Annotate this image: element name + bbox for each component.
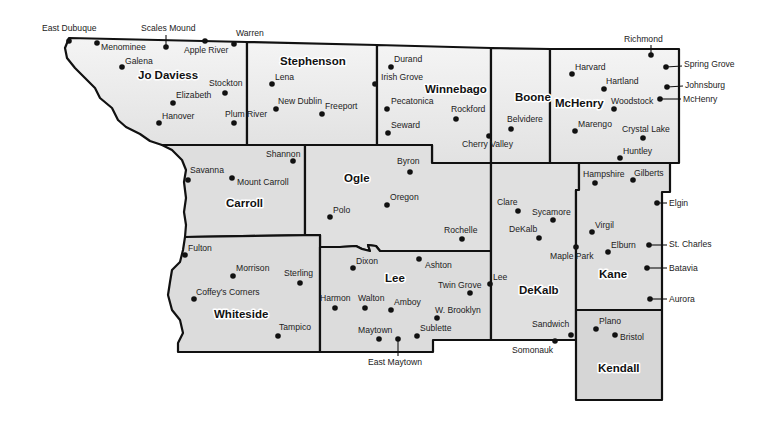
city-label: East Dubuque (42, 23, 97, 33)
city-label: Warren (236, 28, 264, 38)
city-label: Polo (333, 205, 350, 215)
city-label: Johnsburg (685, 80, 725, 90)
city-marker-icon (640, 135, 646, 141)
city-label: Seward (391, 120, 420, 130)
city-marker-icon (617, 155, 623, 161)
city-marker-icon (269, 81, 275, 87)
city-marker-icon (508, 126, 514, 132)
county-label-kendall: Kendall (598, 362, 640, 374)
city-label: Richmond (624, 34, 663, 44)
city-label: Ashton (425, 260, 452, 270)
city-marker-icon (319, 111, 325, 117)
city-marker-icon (385, 130, 391, 136)
city-marker-icon (589, 229, 595, 235)
city-marker-icon (568, 332, 574, 338)
city-label: Lena (275, 72, 294, 82)
city-label: Byron (397, 156, 420, 166)
city-marker-icon (611, 106, 617, 112)
city-label: Twin Grove (438, 280, 482, 290)
city-marker-icon (515, 208, 521, 214)
county-label-carroll: Carroll (226, 197, 263, 209)
city-marker-icon (416, 256, 422, 262)
city-label: Cherry Valley (462, 139, 514, 149)
county-map: Jo DaviessStephensonWinnebagoBooneMcHenr… (0, 0, 775, 421)
city-marker-icon (644, 265, 650, 271)
city-label: Sycamore (532, 207, 571, 217)
city-marker-icon (388, 307, 394, 313)
city-marker-icon (362, 305, 368, 311)
city-marker-icon (229, 175, 235, 181)
city-marker-icon (185, 177, 191, 183)
city-marker-icon (332, 305, 338, 311)
county-label-lee: Lee (385, 272, 405, 284)
city-marker-icon (647, 296, 653, 302)
city-label: Irish Grove (381, 72, 423, 82)
city-label: Shannon (266, 149, 301, 159)
county-label-stephenson: Stephenson (280, 55, 346, 67)
city-marker-icon (550, 217, 556, 223)
city-marker-icon (434, 315, 440, 321)
city-marker-icon (170, 100, 176, 106)
city-marker-icon (646, 242, 652, 248)
city-label: Sublette (420, 323, 452, 333)
city-marker-icon (350, 265, 356, 271)
city-marker-icon (654, 200, 660, 206)
city-label: Gilberts (634, 168, 664, 178)
city-label: Clare (497, 197, 518, 207)
city-marker-icon (231, 120, 237, 126)
city-label: Crystal Lake (622, 124, 670, 134)
city-label: Lee (493, 272, 508, 282)
city-label: Tampico (279, 322, 311, 332)
city-label: St. Charles (669, 239, 712, 249)
city-label: Freeport (325, 101, 358, 111)
city-marker-icon (612, 332, 618, 338)
city-marker-icon (593, 326, 599, 332)
city-label: Rockford (451, 104, 486, 114)
city-label: Stockton (209, 78, 243, 88)
city-label: Dixon (356, 256, 378, 266)
city-label: Somonauk (512, 345, 554, 355)
city-label: Woodstock (611, 96, 654, 106)
city-marker-icon (376, 336, 382, 342)
city-label: Elgin (669, 198, 688, 208)
city-marker-icon (453, 116, 459, 122)
county-label-kane: Kane (599, 268, 627, 280)
city-label: Amboy (394, 297, 421, 307)
city-label: Scales Mound (141, 23, 196, 33)
city-menominee[interactable]: Menominee (94, 40, 146, 52)
city-label: New Dublin (278, 96, 322, 106)
county-shapes (65, 38, 679, 400)
city-label: McHenry (683, 94, 718, 104)
city-label: Elizabeth (176, 90, 212, 100)
city-label: Aurora (669, 294, 695, 304)
city-label: Sandwich (532, 319, 569, 329)
city-label: East Maytown (368, 357, 422, 367)
city-label: Oregon (390, 192, 419, 202)
city-marker-icon (573, 244, 579, 250)
city-label: Marengo (578, 119, 612, 129)
city-marker-icon (275, 333, 281, 339)
city-marker-icon (222, 90, 228, 96)
county-label-ogle: Ogle (344, 172, 370, 184)
city-label: Mount Carroll (237, 177, 289, 187)
city-label: Virgil (595, 220, 614, 230)
city-marker-icon (592, 180, 598, 186)
city-label: Maple Park (550, 251, 594, 261)
city-marker-icon (395, 336, 401, 342)
city-marker-icon (630, 177, 636, 183)
county-label-whiteside: Whiteside (214, 308, 268, 320)
county-kane[interactable] (576, 163, 670, 310)
city-label: W. Brooklyn (435, 305, 481, 315)
city-marker-icon (569, 71, 575, 77)
city-label: Coffey's Corners (196, 287, 260, 297)
city-label: Savanna (190, 165, 224, 175)
city-mount-carroll[interactable]: Mount Carroll (229, 175, 288, 187)
city-marker-icon (163, 44, 169, 50)
city-marker-icon (572, 128, 578, 134)
city-label: Spring Grove (684, 59, 735, 69)
city-marker-icon (552, 338, 558, 344)
city-marker-icon (467, 290, 473, 296)
city-marker-icon (657, 96, 663, 102)
city-marker-icon (66, 38, 72, 44)
county-label-winnebago: Winnebago (425, 83, 487, 95)
